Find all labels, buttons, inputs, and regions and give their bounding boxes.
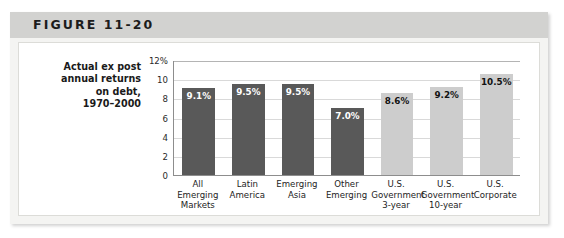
bar-value-label: 8.6%	[381, 96, 414, 106]
x-tick-label: All EmergingMarkets	[173, 179, 223, 211]
x-tick-label: OtherEmerging	[322, 179, 372, 200]
x-tick-label-line: 10-year	[421, 200, 471, 211]
figure-title: FIGURE 11-20	[33, 17, 154, 32]
bar-value-label: 9.2%	[430, 90, 463, 100]
y-tick-label: 2	[163, 152, 168, 162]
y-tick-label: 0	[163, 171, 168, 181]
chart-caption-line: annual returns	[33, 73, 141, 85]
x-tick-label-line: Government	[421, 190, 471, 201]
x-tick-label-line: Latin	[223, 179, 273, 190]
figure-inner-frame: Actual ex postannual returnson debt,1970…	[18, 42, 540, 216]
x-tick-label-line: U.S.	[470, 179, 520, 190]
y-tick-label: 10	[157, 75, 168, 85]
bar: 8.6%	[381, 93, 414, 175]
y-tick-label: 6	[163, 114, 168, 124]
bar-value-label: 9.5%	[282, 87, 315, 97]
x-tick-label-line: Government	[371, 190, 421, 201]
x-tick-label-line: U.S.	[421, 179, 471, 190]
bar-value-label: 10.5%	[480, 77, 513, 87]
x-tick-label-line: 3-year	[371, 200, 421, 211]
x-tick-label: U.S.Government3-year	[371, 179, 421, 211]
plot-wrap: 024681012% 9.1%9.5%9.5%7.0%8.6%9.2%10.5%…	[145, 61, 520, 221]
chart-caption-line: 1970–2000	[33, 98, 141, 110]
bar: 9.5%	[282, 84, 315, 175]
x-tick-label-line: America	[223, 190, 273, 201]
bar: 10.5%	[480, 74, 513, 175]
chart-caption-line: on debt,	[33, 86, 141, 98]
plot-box: 9.1%9.5%9.5%7.0%8.6%9.2%10.5%	[173, 61, 520, 176]
bar: 9.5%	[232, 84, 265, 175]
bar-value-label: 7.0%	[331, 111, 364, 121]
x-tick-label-line: Markets	[173, 200, 223, 211]
figure-header-band: FIGURE 11-20	[10, 12, 548, 38]
x-tick-label-line: Corporate	[470, 190, 520, 201]
x-axis: All EmergingMarketsLatinAmericaEmergingA…	[173, 179, 520, 223]
bar: 7.0%	[331, 108, 364, 175]
y-tick-label: 4	[163, 133, 168, 143]
x-tick-label-line: Other	[322, 179, 372, 190]
y-tick-label: 12%	[149, 56, 168, 66]
y-axis: 024681012%	[145, 61, 171, 176]
x-tick-label: EmergingAsia	[272, 179, 322, 200]
x-tick-label-line: Asia	[272, 190, 322, 201]
bars-layer: 9.1%9.5%9.5%7.0%8.6%9.2%10.5%	[174, 61, 520, 175]
x-tick-label: LatinAmerica	[223, 179, 273, 200]
bar-chart: Actual ex postannual returnson debt,1970…	[19, 43, 539, 215]
bar-value-label: 9.1%	[182, 91, 215, 101]
bar: 9.1%	[182, 88, 215, 175]
figure-panel: FIGURE 11-20 Actual ex postannual return…	[10, 12, 548, 224]
chart-caption: Actual ex postannual returnson debt,1970…	[33, 61, 141, 111]
y-tick-label: 8	[163, 94, 168, 104]
x-tick-label: U.S.Government10-year	[421, 179, 471, 211]
x-tick-label-line: All Emerging	[173, 179, 223, 200]
x-tick-label-line: Emerging	[272, 179, 322, 190]
bar-value-label: 9.5%	[232, 87, 265, 97]
chart-caption-line: Actual ex post	[33, 61, 141, 73]
x-tick-label-line: Emerging	[322, 190, 372, 201]
bar: 9.2%	[430, 87, 463, 175]
x-tick-label-line: U.S.	[371, 179, 421, 190]
x-tick-label: U.S.Corporate	[470, 179, 520, 200]
